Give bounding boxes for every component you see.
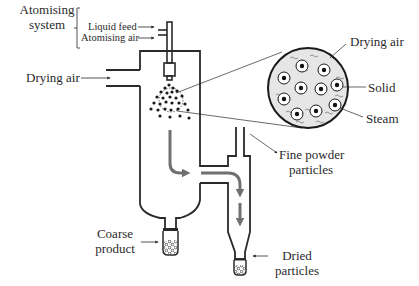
dried-particles-jar bbox=[234, 258, 246, 275]
coarse-product-jar bbox=[163, 228, 178, 255]
coarse-product-label: Coarse product bbox=[92, 226, 138, 256]
drying-air-leader bbox=[330, 44, 346, 58]
atomising-air-label: Atomising air bbox=[81, 32, 139, 44]
spray-droplets bbox=[149, 83, 190, 119]
drying-air-detail-label: Drying air bbox=[350, 34, 404, 49]
dried-particles-label: Dried particles bbox=[269, 248, 325, 278]
atomising-system-label: Atomising system bbox=[19, 2, 75, 32]
drying-air-inlet-label: Drying air bbox=[26, 70, 80, 85]
fine-powder-label: Fine powder particles bbox=[279, 147, 344, 177]
particle-detail-view bbox=[268, 48, 348, 128]
steam-label: Steam bbox=[366, 111, 399, 126]
solid-label: Solid bbox=[368, 80, 395, 95]
fine-powder-leader bbox=[250, 134, 277, 153]
flow-arrows bbox=[170, 130, 240, 222]
steam-leader bbox=[340, 108, 363, 117]
